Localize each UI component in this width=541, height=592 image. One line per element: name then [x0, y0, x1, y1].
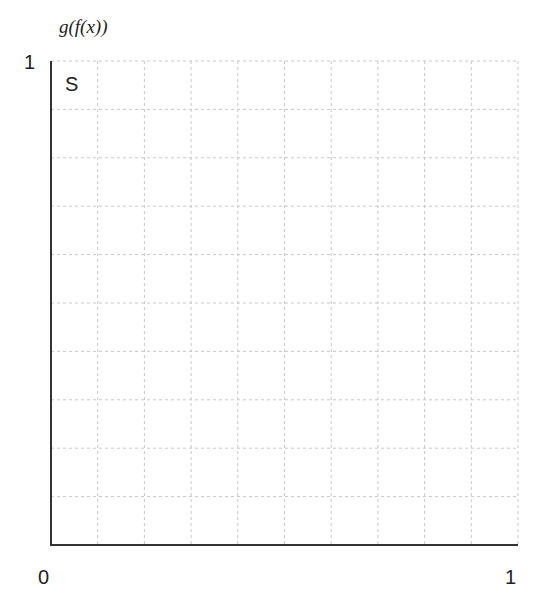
chart: g(f(x)) 1 0 1 S [0, 0, 541, 592]
y-tick-label-max: 1 [24, 52, 35, 72]
x-tick-label-max: 1 [505, 567, 516, 587]
x-tick-label-min: 0 [38, 567, 49, 587]
grid-lines [51, 61, 518, 545]
region-label-s: S [65, 74, 78, 94]
plot-area [0, 0, 541, 592]
y-axis-label: g(f(x)) [59, 16, 108, 38]
